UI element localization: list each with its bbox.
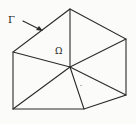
edge-bottomleft-center (13, 67, 70, 109)
small-mark: - (80, 81, 82, 88)
edge-righttop-center (70, 39, 126, 67)
diagram-canvas: Γ Ω - (0, 0, 136, 124)
boundary-label: Γ (8, 14, 15, 25)
boundary-arrow (23, 21, 43, 31)
mesh-diagram: Γ Ω - (0, 0, 136, 124)
domain-label: Ω (55, 46, 62, 56)
